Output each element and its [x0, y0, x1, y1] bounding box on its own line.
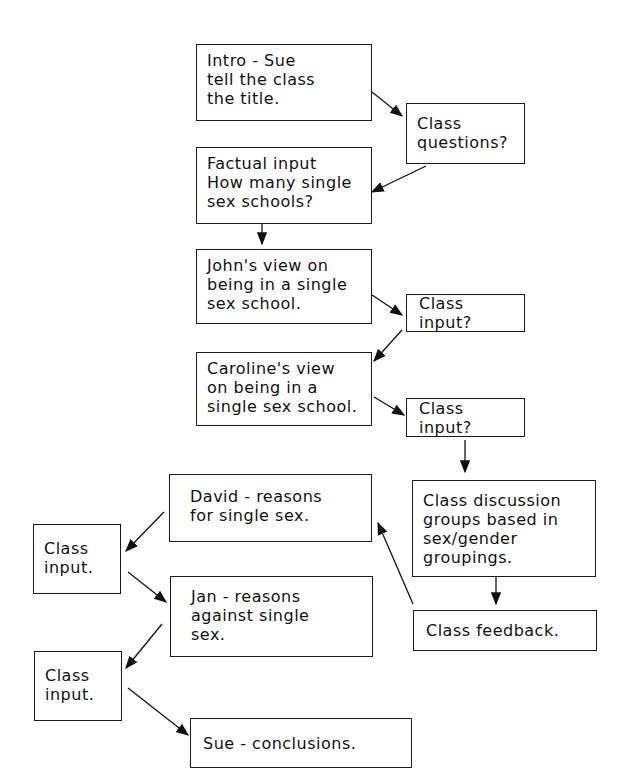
node-text: groupings. — [423, 548, 585, 567]
node-text: Class input? — [419, 294, 514, 332]
node-factual-input: Factual input How many single sex school… — [196, 147, 372, 224]
node-text: questions? — [417, 133, 514, 152]
node-text: sex/gender — [423, 529, 585, 548]
node-class-questions: Class questions? — [406, 103, 525, 164]
node-david-reasons: David - reasons for single sex. — [169, 474, 372, 542]
node-text: How many single — [207, 173, 361, 192]
node-class-input-1: Class input? — [406, 294, 525, 332]
node-text: Intro - Sue — [207, 51, 361, 70]
node-text: for single sex. — [190, 506, 351, 525]
node-john-view: John's view on being in a single sex sch… — [196, 249, 372, 324]
node-class-feedback: Class feedback. — [413, 610, 597, 651]
node-text: David - reasons — [190, 487, 351, 506]
node-text: groups based in — [423, 510, 585, 529]
node-text: being in a single — [207, 275, 361, 294]
node-text: tell the class — [207, 70, 361, 89]
node-class-input-2: Class input? — [406, 398, 525, 437]
node-text: Class input? — [419, 399, 514, 437]
node-sue-conclusions: Sue - conclusions. — [190, 718, 412, 768]
node-text: Caroline's view — [207, 359, 361, 378]
node-jan-reasons: Jan - reasons against single sex. — [170, 576, 373, 657]
node-text: the title. — [207, 89, 361, 108]
node-text: on being in a — [207, 378, 361, 397]
node-caroline-view: Caroline's view on being in a single sex… — [196, 352, 372, 426]
node-text: Factual input — [207, 154, 361, 173]
node-text: sex school. — [207, 294, 361, 313]
node-text: sex schools? — [207, 192, 361, 211]
node-text: Class — [45, 666, 111, 685]
node-text: sex. — [191, 625, 352, 644]
node-text: single sex school. — [207, 397, 361, 416]
node-text: Sue - conclusions. — [203, 734, 356, 753]
node-text: input. — [44, 558, 110, 577]
node-text: against single — [191, 606, 352, 625]
node-text: Class discussion — [423, 491, 585, 510]
node-class-discussion: Class discussion groups based in sex/gen… — [412, 480, 596, 577]
node-text: Jan - reasons — [191, 587, 352, 606]
node-text: Class — [44, 539, 110, 558]
node-intro: Intro - Sue tell the class the title. — [196, 44, 372, 121]
node-text: Class — [417, 114, 514, 133]
node-class-input-4: Class input. — [34, 651, 122, 721]
node-text: Class feedback. — [426, 621, 559, 640]
node-text: John's view on — [207, 256, 361, 275]
node-class-input-3: Class input. — [33, 524, 121, 594]
node-text: input. — [45, 685, 111, 704]
